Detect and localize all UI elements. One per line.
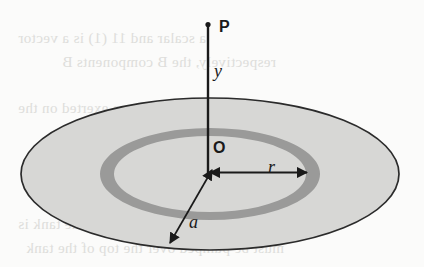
physics-figure: a scalar and 11 (1) is a vector respecti… [0,0,424,267]
label-radius-a: a [189,213,198,231]
label-radius-r: r [268,158,275,176]
point-p-dot [205,22,210,27]
diagram-canvas [0,0,424,267]
label-origin-o: O [213,140,225,156]
label-height-y: y [214,62,222,80]
label-point-p: P [219,19,230,35]
